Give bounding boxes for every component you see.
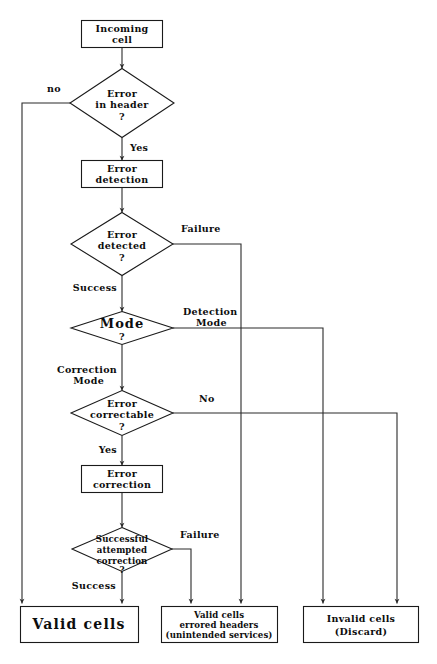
- error-correction-line1: Error: [107, 468, 138, 479]
- error-in-header-line2: in header: [95, 99, 149, 110]
- valid-cells-errored-line3: (unintended services): [165, 630, 272, 640]
- error-detected-line3: ?: [119, 252, 125, 263]
- invalid-cells-line1: Invalid cells: [327, 613, 396, 624]
- edge-label-correctable-yes: Yes: [98, 444, 117, 455]
- node-mode[interactable]: Mode ?: [71, 312, 173, 345]
- node-successful-correction[interactable]: Successful attempted correction ?: [72, 528, 172, 575]
- edge-label-correction-mode-2: Mode: [73, 375, 104, 386]
- node-invalid-cells[interactable]: Invalid cells (Discard): [304, 607, 419, 643]
- node-valid-cells[interactable]: Valid cells: [21, 607, 139, 643]
- flowchart-svg: Incoming cell Error in header ? Error de…: [0, 0, 437, 664]
- edge-detection-mode-to-invalid-cells: [173, 328, 323, 603]
- valid-cells-errored-line1: Valid cells: [193, 610, 244, 620]
- node-error-in-header[interactable]: Error in header ?: [70, 69, 174, 138]
- error-detected-line2: detected: [98, 240, 146, 251]
- edge-correction-failure-to-errored-headers: [172, 549, 191, 603]
- error-correctable-line2: correctable: [90, 409, 154, 420]
- incoming-cell-line2: cell: [112, 34, 132, 45]
- edge-label-yes-header-error: Yes: [129, 142, 148, 153]
- node-error-correctable[interactable]: Error correctable ?: [71, 391, 173, 436]
- valid-cells-line1: Valid cells: [31, 616, 125, 632]
- edge-label-detect-failure: Failure: [181, 223, 221, 234]
- edge-label-no-header-error: no: [47, 83, 61, 94]
- incoming-cell-line1: Incoming: [95, 23, 148, 34]
- invalid-cells-line2: (Discard): [335, 626, 387, 637]
- edge-label-correction-success: Success: [72, 580, 116, 591]
- mode-line1: Mode: [100, 316, 144, 331]
- mode-line2: ?: [119, 331, 125, 342]
- error-detected-line1: Error: [107, 229, 138, 240]
- node-error-correction[interactable]: Error correction: [82, 466, 163, 493]
- edge-label-correction-failure: Failure: [180, 529, 220, 540]
- successful-correction-line2: attempted: [97, 545, 147, 555]
- successful-correction-line1: Successful: [96, 534, 149, 544]
- edge-not-correctable-to-invalid-cells: [173, 413, 397, 603]
- node-incoming-cell[interactable]: Incoming cell: [82, 21, 163, 48]
- flowchart-canvas: Incoming cell Error in header ? Error de…: [0, 0, 437, 664]
- edge-label-correction-mode-1: Correction: [57, 364, 117, 375]
- error-detection-line1: Error: [107, 163, 138, 174]
- edge-label-detect-success: Success: [73, 282, 117, 293]
- error-correctable-line3: ?: [119, 421, 125, 432]
- edge-no-error-to-valid-cells: [22, 103, 71, 603]
- node-error-detected[interactable]: Error detected ?: [71, 213, 173, 276]
- error-correction-line2: correction: [93, 479, 151, 490]
- error-correctable-line1: Error: [107, 398, 138, 409]
- edge-label-detection-mode-2: Mode: [196, 317, 227, 328]
- successful-correction-line4: ?: [119, 565, 124, 575]
- node-valid-cells-errored[interactable]: Valid cells errored headers (unintended …: [162, 607, 278, 643]
- edge-label-detection-mode-1: Detection: [183, 306, 237, 317]
- error-detection-line2: detection: [96, 174, 149, 185]
- valid-cells-errored-line2: errored headers: [180, 620, 259, 630]
- error-in-header-line1: Error: [107, 88, 138, 99]
- error-in-header-line3: ?: [119, 111, 125, 122]
- node-error-detection[interactable]: Error detection: [82, 161, 163, 188]
- edge-label-not-correctable: No: [199, 393, 215, 404]
